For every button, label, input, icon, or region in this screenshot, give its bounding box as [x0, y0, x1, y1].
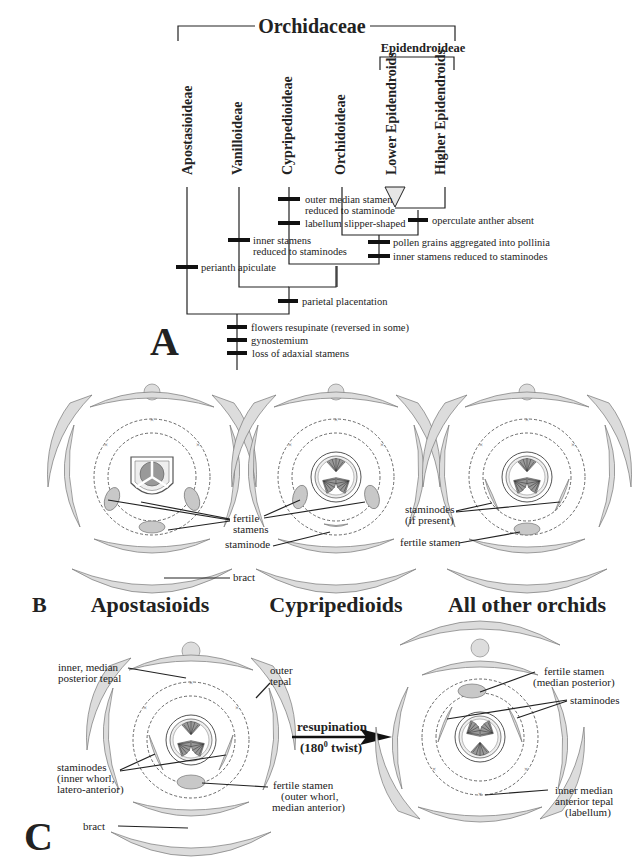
- label-labellum: (labellum): [565, 806, 611, 819]
- label-median-posterior: (median posterior): [533, 676, 615, 689]
- char-inner-stamens-vanilla-2: reduced to staminodes: [253, 246, 347, 257]
- fertile-stamen: [177, 775, 205, 789]
- fertile-stamens-leaders: [108, 500, 230, 530]
- labellum-leader: [485, 790, 548, 795]
- char-outer-median: outer median stamen: [305, 194, 393, 205]
- label-tepal: tepal: [270, 675, 291, 687]
- fertile-stamen-leader: [459, 532, 520, 543]
- staminode: [555, 479, 569, 511]
- diagram-apostasioid: [47, 384, 256, 593]
- panel-c-resupination: inner, median posterior tepal outer tepa…: [24, 621, 620, 859]
- orchidaceae-bracket-left: [178, 26, 255, 41]
- taxon-cypripedioideae: Cypripedioideae: [280, 76, 295, 175]
- taxon-lower-epidendroids: Lower Epidendroids: [384, 52, 399, 175]
- staminode: [485, 479, 499, 511]
- char-adaxial: loss of adaxial stamens: [252, 348, 349, 359]
- outer-tepal-leader: [256, 683, 270, 698]
- label-posterior-tepal: posterior tepal: [58, 672, 121, 684]
- fertile-stamen: [181, 485, 202, 512]
- axis-circle: [471, 639, 489, 657]
- char-bar: [227, 351, 247, 355]
- char-inner-stamens-epi: inner stamens reduced to staminodes: [393, 251, 548, 262]
- orchidaceae-bracket-right: [370, 26, 455, 41]
- label-if-present: (if present): [405, 514, 454, 527]
- fertile-stamen-leader: [202, 783, 268, 787]
- fertile-stamen-leader: [480, 672, 535, 692]
- staminode: [508, 707, 522, 742]
- label-median-anterior: median anterior): [272, 801, 345, 814]
- staminode: [219, 735, 233, 770]
- char-bar: [278, 221, 300, 225]
- taxon-higher-epidendroids: Higher Epidendroids: [433, 49, 448, 175]
- taxon-vanilloideae: Vanilloideae: [230, 102, 245, 175]
- char-resupinate: flowers resupinate (reversed in some): [251, 322, 410, 334]
- char-bar: [408, 218, 428, 222]
- taxon-apostasioideae: Apostasioideae: [180, 86, 195, 175]
- arrow-label-resupination: resupination: [297, 719, 368, 734]
- char-outer-median-2: reduced to staminode: [305, 205, 395, 216]
- bract-leader: [118, 826, 188, 828]
- family-title: Orchidaceae: [258, 15, 366, 37]
- diagram-after-resupination: [375, 621, 584, 822]
- char-gynostemium: gynostemium: [251, 335, 308, 346]
- char-bar: [227, 325, 247, 329]
- title-all-other-orchids: All other orchids: [448, 592, 607, 617]
- char-bar: [368, 254, 390, 258]
- fertile-stamen: [514, 523, 540, 535]
- char-parietal: parietal placentation: [302, 296, 388, 307]
- orchid-phylogeny-figure: × × × Orchidaceae Epidendroideae Apostas…: [0, 0, 641, 864]
- staminodes-leaders: [447, 700, 567, 719]
- char-bar: [278, 197, 300, 201]
- panel-label-b: B: [32, 592, 47, 617]
- char-bar: [368, 240, 390, 244]
- label-latero-anterior: latero-anterior): [57, 783, 124, 796]
- panel-b-floral-diagrams: fertile stamens staminode bract staminod…: [32, 384, 632, 617]
- char-bar: [227, 338, 247, 342]
- char-bar: [176, 265, 198, 269]
- label-staminode: staminode: [225, 538, 270, 550]
- char-labellum: labellum slipper-shaped: [305, 218, 406, 229]
- taxon-orchidoideae: Orchidoideae: [333, 94, 348, 175]
- title-apostasioids: Apostasioids: [91, 592, 210, 617]
- staminodes-leaders: [456, 502, 560, 512]
- diagram-cypripedioid: [231, 384, 440, 593]
- label-bract: bract: [233, 571, 255, 583]
- arrow-label-twist: (1800 twist): [300, 740, 362, 755]
- diagram-other-orchids: [422, 384, 631, 593]
- inner-tepal-leader: [128, 668, 186, 678]
- staminode: [438, 707, 452, 742]
- fertile-stamen: [101, 485, 122, 512]
- label-staminodes-right: staminodes: [570, 694, 620, 706]
- label-fertile-stamen: fertile stamen: [400, 536, 461, 548]
- staminode: [324, 524, 348, 527]
- char-operculate: operculate anther absent: [432, 215, 534, 226]
- char-pollinia: pollen grains aggregated into pollinia: [393, 237, 550, 248]
- title-cypripedioids: Cypripedioids: [269, 592, 403, 617]
- char-bar: [228, 238, 250, 242]
- panel-label-a: A: [150, 319, 179, 364]
- char-perianth: perianth apiculate: [201, 262, 276, 273]
- panel-a-cladogram: Orchidaceae Epidendroideae Apostasioidea…: [150, 15, 550, 370]
- label-bract: bract: [83, 820, 105, 832]
- panel-label-c: C: [24, 814, 53, 859]
- char-bar: [278, 299, 298, 303]
- char-inner-stamens-vanilla: inner stamens: [253, 235, 311, 246]
- fertile-stamen: [139, 521, 165, 533]
